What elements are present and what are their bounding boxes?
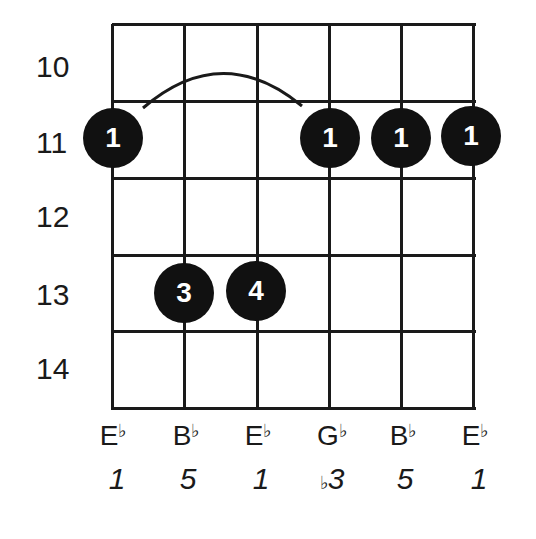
interval-degree: 5 [158,462,218,496]
string-note: B♭ [373,420,433,452]
finger-dot: 1 [371,108,431,168]
string-note: E♭ [83,420,143,452]
string-note: E♭ [228,420,288,452]
finger-dot: 1 [300,108,360,168]
string-note: E♭ [445,420,505,452]
finger-dot: 3 [154,263,214,323]
interval-degree: 5 [375,462,435,496]
string-note: G♭ [302,420,362,452]
finger-dot: 1 [83,108,143,168]
interval-degree: ♭3 [302,462,362,496]
string-note: B♭ [156,420,216,452]
interval-degree: 1 [231,462,291,496]
finger-dot: 4 [226,261,286,321]
interval-degree: 1 [449,462,509,496]
finger-dot: 1 [441,106,501,166]
interval-degree: 1 [87,462,147,496]
